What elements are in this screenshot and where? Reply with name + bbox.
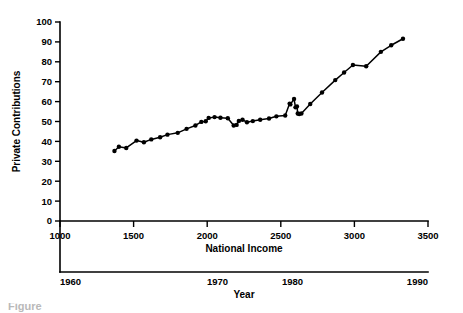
data-point — [245, 120, 249, 124]
data-point — [184, 127, 188, 131]
caption-strip: Figure — [0, 303, 463, 313]
y-tick-label: 80 — [41, 56, 52, 67]
secondary-axis-title: Year — [233, 289, 254, 300]
data-point — [308, 102, 312, 106]
data-point — [176, 131, 180, 135]
y-axis-title: Private Contributions — [11, 70, 22, 172]
year-tick-label: 1980 — [282, 276, 303, 287]
data-point — [251, 119, 255, 123]
year-tick-label: 1990 — [407, 276, 428, 287]
y-tick-label: 40 — [41, 136, 52, 147]
x-tick-label: 1000 — [49, 230, 70, 241]
data-point — [234, 123, 238, 127]
x-axis-ticks — [60, 221, 428, 227]
data-point — [124, 146, 128, 150]
year-axis-tick-labels: 1960197019801990 — [60, 276, 428, 287]
figure-caption: Figure — [8, 303, 42, 312]
data-point — [274, 114, 278, 118]
data-point — [258, 118, 262, 122]
x-tick-label: 3500 — [417, 230, 438, 241]
data-point — [134, 138, 138, 142]
x-axis-tick-labels: 100015002000250030003500 — [49, 230, 438, 241]
data-point — [212, 115, 216, 119]
data-point — [204, 119, 208, 123]
data-point — [240, 118, 244, 122]
data-point — [112, 149, 116, 153]
data-point — [165, 132, 169, 136]
data-point — [206, 116, 210, 120]
year-tick-label: 1970 — [207, 276, 228, 287]
data-point — [401, 37, 405, 41]
y-tick-label: 50 — [41, 116, 52, 127]
data-series-line — [114, 39, 403, 151]
x-tick-label: 3000 — [344, 230, 365, 241]
data-point — [342, 70, 346, 74]
data-point — [193, 123, 197, 127]
data-point — [149, 137, 153, 141]
y-tick-label: 100 — [36, 16, 52, 27]
y-axis-tick-labels: 0102030405060708090100 — [36, 16, 52, 226]
data-point — [299, 111, 303, 115]
y-tick-label: 30 — [41, 156, 52, 167]
y-tick-label: 60 — [41, 96, 52, 107]
x-tick-label: 2000 — [197, 230, 218, 241]
chart-svg: 0102030405060708090100 10001500200025003… — [0, 0, 463, 313]
data-point — [117, 145, 121, 149]
data-point — [267, 116, 271, 120]
x-tick-label: 1500 — [123, 230, 144, 241]
data-series-markers — [112, 37, 405, 154]
year-tick-label: 1960 — [60, 276, 81, 287]
y-tick-label: 70 — [41, 76, 52, 87]
data-point — [218, 116, 222, 120]
y-tick-label: 20 — [41, 176, 52, 187]
data-point — [333, 78, 337, 82]
data-point — [226, 116, 230, 120]
data-point — [389, 43, 393, 47]
x-axis-title: National Income — [205, 243, 283, 254]
y-tick-label: 10 — [41, 196, 52, 207]
data-point — [292, 97, 296, 101]
y-tick-label: 0 — [47, 215, 52, 226]
data-point — [351, 63, 355, 67]
y-tick-label: 90 — [41, 36, 52, 47]
data-point — [320, 90, 324, 94]
data-point — [364, 64, 368, 68]
data-point — [379, 50, 383, 54]
x-tick-label: 2500 — [270, 230, 291, 241]
data-point — [283, 113, 287, 117]
data-point — [158, 135, 162, 139]
chart-figure: 0102030405060708090100 10001500200025003… — [0, 0, 463, 313]
data-point — [288, 102, 292, 106]
data-point — [199, 120, 203, 124]
data-point — [295, 104, 299, 108]
data-point — [142, 140, 146, 144]
